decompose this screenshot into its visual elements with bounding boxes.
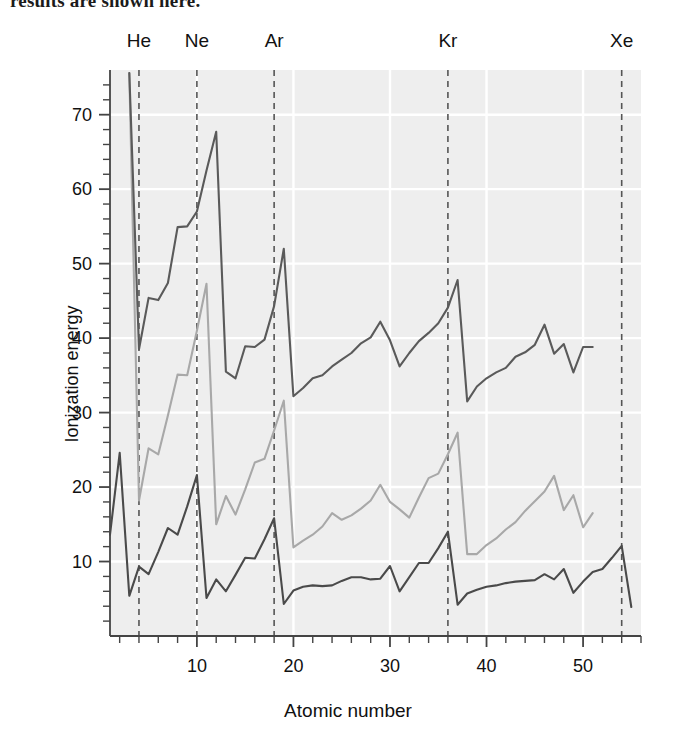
chart-plot xyxy=(0,0,696,747)
chart-page: results are shown here. HeNeArKrXe Ioniz… xyxy=(0,0,696,747)
plot-panel xyxy=(110,70,641,636)
